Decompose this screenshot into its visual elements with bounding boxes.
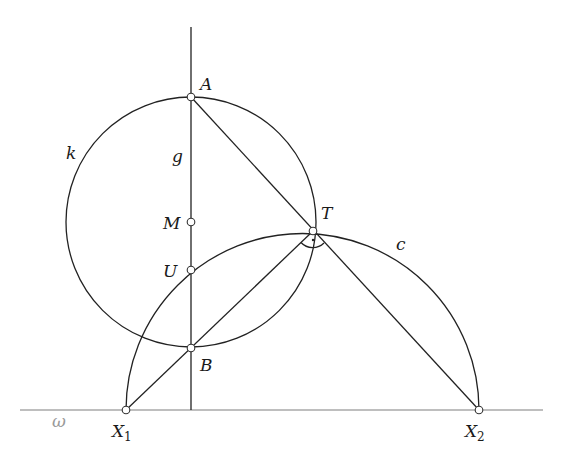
semicircle-c (126, 233, 479, 410)
label-m: M (162, 213, 181, 233)
label-c: c (396, 234, 406, 254)
label-omega: ω (52, 411, 66, 431)
label-b: B (199, 355, 213, 375)
point-b (187, 344, 195, 352)
point-m (187, 218, 195, 226)
point-u (187, 266, 195, 274)
point-x2 (475, 406, 483, 414)
geometry-diagram: A M U B T X1 X2 k g c ω (0, 0, 567, 461)
point-t (309, 227, 317, 235)
label-x2: X2 (463, 421, 485, 444)
label-x1: X1 (110, 421, 132, 444)
point-x1 (122, 406, 130, 414)
label-u: U (163, 261, 178, 281)
label-g: g (172, 146, 183, 166)
point-a (187, 93, 195, 101)
right-angle-dot (312, 239, 314, 241)
label-t: T (321, 203, 334, 223)
segment-a-x2 (191, 97, 479, 410)
label-a: A (198, 74, 212, 94)
segment-x1-t (126, 231, 313, 410)
right-angle-mark (301, 243, 324, 248)
label-k: k (66, 143, 76, 163)
